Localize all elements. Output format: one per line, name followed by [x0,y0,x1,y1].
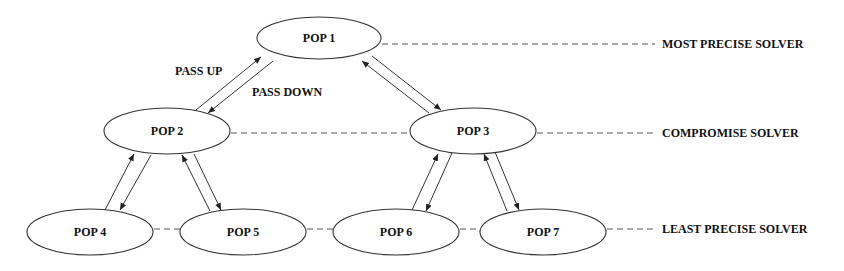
level-label-least-precise: LEAST PRECISE SOLVER [662,222,808,236]
node-pop1-label: POP 1 [303,31,335,45]
node-pop4-label: POP 4 [74,225,106,239]
population-hierarchy-diagram: POP 1 POP 2 POP 3 POP 4 POP 5 POP 6 POP … [0,0,844,271]
node-pop3: POP 3 [410,108,536,154]
edge-label-pass-up: PASS UP [175,64,222,78]
arrow-pass-down-pop2-pop4 [120,155,151,210]
node-pop2-label: POP 2 [151,124,183,138]
arrow-pass-up-pop4-pop2 [105,154,134,210]
level-guide-lines [154,44,655,229]
arrow-pass-down-pop3-pop6 [426,153,452,211]
node-pop4: POP 4 [27,209,153,255]
level-label-compromise: COMPROMISE SOLVER [662,126,799,140]
level-label-most-precise: MOST PRECISE SOLVER [662,37,804,51]
node-pop7-label: POP 7 [527,225,559,239]
arrow-pass-down-pop2-pop5 [194,154,221,210]
edge-label-pass-down: PASS DOWN [252,85,322,99]
node-pop5: POP 5 [180,209,306,255]
arrow-pass-down-pop3-pop7 [495,152,519,210]
arrow-pass-down-pop1-pop3 [372,56,441,110]
node-pop6-label: POP 6 [380,225,412,239]
node-pop1: POP 1 [257,17,381,59]
node-pop6: POP 6 [333,209,459,255]
node-pop7: POP 7 [480,209,606,255]
arrow-pass-up-pop7-pop3 [484,154,507,211]
arrow-pass-up-pop6-pop3 [412,154,438,210]
node-pop3-label: POP 3 [457,124,489,138]
arrow-pass-up-pop3-pop1 [362,61,429,113]
node-pop5-label: POP 5 [227,225,259,239]
node-pop2: POP 2 [104,108,230,154]
arrow-pass-up-pop5-pop2 [182,155,210,211]
